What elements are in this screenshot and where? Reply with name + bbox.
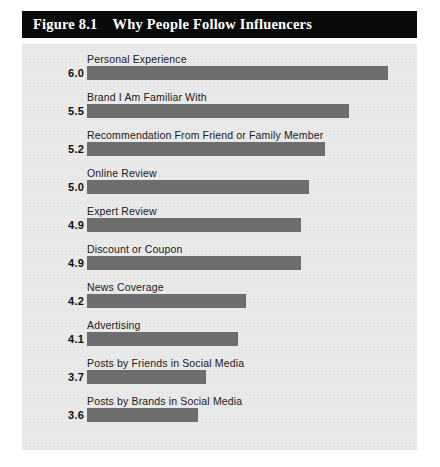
bar-value-label: 5.5 [22, 105, 84, 117]
bar-row: Posts by Friends in Social Media3.7 [22, 357, 417, 395]
bar [87, 332, 238, 346]
bar-category-label: Advertising [87, 319, 141, 331]
bar-value-label: 5.2 [22, 143, 84, 155]
bar-value-label: 5.0 [22, 181, 84, 193]
figure-title-banner: Figure 8.1 Why People Follow Influencers [22, 11, 417, 38]
bar-row: Brand I Am Familiar With5.5 [22, 91, 417, 129]
bar [87, 218, 301, 232]
figure-title-text: Figure 8.1 Why People Follow Influencers [22, 16, 312, 33]
figure-number: Figure 8.1 [33, 16, 98, 33]
bar [87, 104, 349, 118]
bar-value-label: 4.2 [22, 295, 84, 307]
bar-category-label: Online Review [87, 167, 157, 179]
bar-row: Personal Experience6.0 [22, 53, 417, 91]
bar [87, 66, 388, 80]
bar [87, 294, 246, 308]
bar-row: Recommendation From Friend or Family Mem… [22, 129, 417, 167]
bar-row: Online Review5.0 [22, 167, 417, 205]
bar-value-label: 3.6 [22, 409, 84, 421]
bar-value-label: 3.7 [22, 371, 84, 383]
bar-row: Discount or Coupon4.9 [22, 243, 417, 281]
bar-category-label: Posts by Brands in Social Media [87, 395, 242, 407]
bar-value-label: 4.1 [22, 333, 84, 345]
bar-category-label: Posts by Friends in Social Media [87, 357, 244, 369]
bar-category-label: Brand I Am Familiar With [87, 91, 207, 103]
bar [87, 142, 325, 156]
bar-row: Posts by Brands in Social Media3.6 [22, 395, 417, 433]
bar-row: Expert Review4.9 [22, 205, 417, 243]
bar-row: News Coverage4.2 [22, 281, 417, 319]
bar [87, 370, 206, 384]
chart-plot-area: Personal Experience6.0Brand I Am Familia… [22, 44, 417, 450]
bar-category-label: Expert Review [87, 205, 157, 217]
bar-value-label: 6.0 [22, 67, 84, 79]
figure-title: Why People Follow Influencers [113, 16, 313, 33]
bar-category-label: Discount or Coupon [87, 243, 183, 255]
bar-category-label: Recommendation From Friend or Family Mem… [87, 129, 323, 141]
bar [87, 256, 301, 270]
bar-category-label: Personal Experience [87, 53, 187, 65]
bar [87, 180, 309, 194]
bar-category-label: News Coverage [87, 281, 164, 293]
bar-value-label: 4.9 [22, 257, 84, 269]
bar-value-label: 4.9 [22, 219, 84, 231]
bar [87, 408, 198, 422]
bar-row: Advertising4.1 [22, 319, 417, 357]
